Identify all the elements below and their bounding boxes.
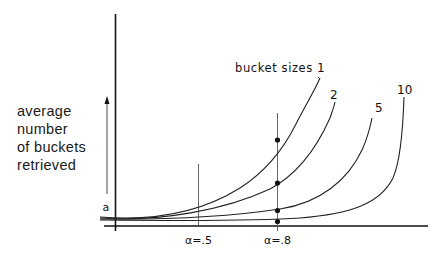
curve-bucket-size-5 [100, 118, 372, 219]
curve-bucket-size-2 [100, 102, 335, 219]
alpha-05-label: α=.5 [185, 234, 212, 247]
diagram-canvas: a bucket sizes 1 2 5 10 α=.5 α=.8 [0, 0, 444, 260]
series-label-10: 10 [397, 83, 412, 97]
point-size-10-at-alpha-08 [275, 219, 280, 224]
curve-bucket-size-10 [100, 97, 404, 221]
point-size-2-at-alpha-08 [275, 180, 280, 185]
alpha-08-label: α=.8 [264, 234, 291, 247]
series-label-5: 5 [375, 101, 383, 115]
series-label-1: 1 [317, 61, 325, 75]
arrow-head-icon [105, 96, 110, 104]
series-prefix-label: bucket sizes [235, 61, 313, 75]
curve-bucket-size-1 [100, 78, 320, 218]
series-label-2: 2 [330, 88, 338, 102]
point-size-1-at-alpha-08 [275, 137, 280, 142]
point-size-5-at-alpha-08 [275, 208, 280, 213]
arrow-label: a [103, 201, 110, 214]
